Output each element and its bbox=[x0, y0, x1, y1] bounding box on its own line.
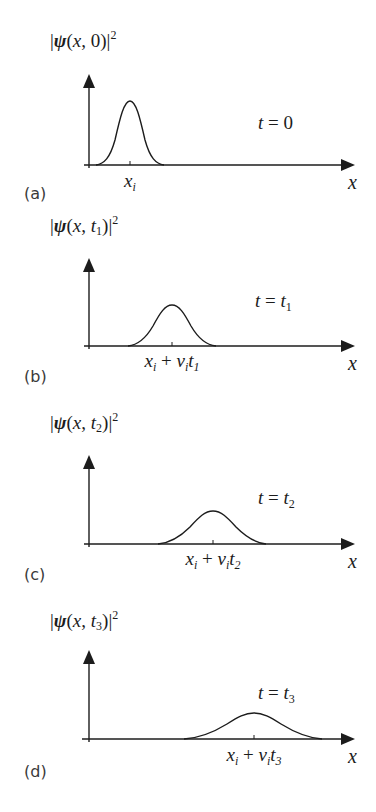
plot-d bbox=[0, 0, 376, 812]
panel-tag-d: (d) bbox=[24, 762, 47, 781]
panel-d: |ψ(x, t3)|2 t = t3 xi + vit3 x (d) bbox=[0, 0, 376, 812]
y-axis-arrow-icon bbox=[83, 650, 95, 742]
x-axis-arrow-icon bbox=[82, 733, 355, 745]
wave-packet-curve bbox=[184, 713, 322, 739]
time-annotation: t = t3 bbox=[258, 682, 295, 707]
peak-tick-label: xi + vit3 bbox=[226, 744, 281, 769]
x-axis-label: x bbox=[348, 745, 357, 768]
